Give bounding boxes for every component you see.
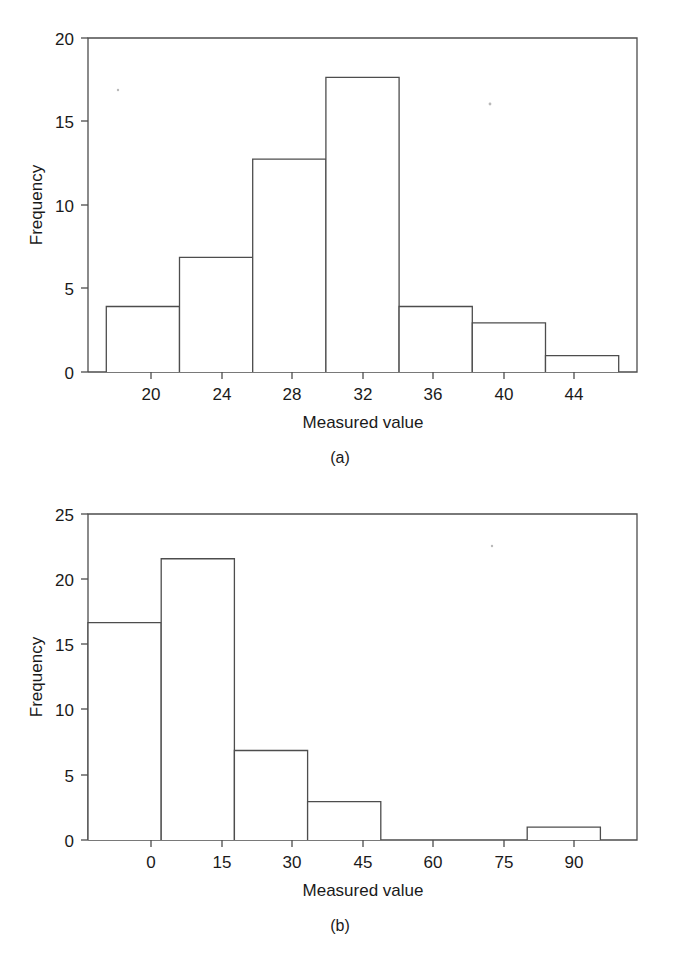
x-tick-label: 60 — [424, 853, 443, 872]
x-tick-label: 15 — [213, 853, 232, 872]
x-tick-label: 36 — [424, 385, 443, 404]
x-tick-label: 0 — [146, 853, 155, 872]
y-tick-label: 5 — [65, 767, 74, 786]
print-speck — [489, 103, 492, 106]
x-tick-label: 24 — [213, 385, 232, 404]
x-axis-title-b: Measured value — [303, 881, 424, 900]
histogram-bar — [399, 307, 472, 372]
x-axis-ticks-b — [151, 840, 574, 847]
x-tick-label: 40 — [495, 385, 514, 404]
x-tick-label: 28 — [283, 385, 302, 404]
histogram-a-svg: 20 15 10 5 0 20 24 28 32 — [0, 0, 677, 480]
y-tick-label: 20 — [55, 571, 74, 590]
x-axis-tick-labels-a: 20 24 28 32 36 40 44 — [142, 385, 584, 404]
histogram-bar — [527, 827, 600, 840]
y-axis-tick-labels-a: 20 15 10 5 0 — [55, 30, 74, 383]
y-tick-label: 20 — [55, 30, 74, 49]
x-axis-title-a: Measured value — [303, 413, 424, 432]
y-tick-label: 25 — [55, 506, 74, 525]
figure-page: 20 15 10 5 0 20 24 28 32 — [0, 0, 677, 965]
histogram-bar — [234, 751, 307, 840]
x-axis-tick-labels-b: 0 15 30 45 60 75 90 — [146, 853, 583, 872]
histogram-bar — [253, 159, 326, 372]
y-tick-label: 0 — [65, 832, 74, 851]
histogram-bars-a — [106, 77, 618, 372]
panel-a: 20 15 10 5 0 20 24 28 32 — [0, 0, 677, 480]
panel-b: 25 20 15 10 5 0 0 15 30 — [0, 480, 677, 965]
y-axis-title-b: Frequency — [27, 636, 46, 717]
panel-caption-b: (b) — [330, 917, 350, 934]
x-tick-label: 90 — [565, 853, 584, 872]
histogram-bar — [88, 623, 161, 840]
histogram-bar — [546, 356, 619, 372]
y-tick-label: 15 — [55, 636, 74, 655]
x-tick-label: 75 — [495, 853, 514, 872]
y-tick-label: 5 — [65, 280, 74, 299]
x-axis-ticks-a — [151, 372, 574, 379]
x-tick-label: 30 — [283, 853, 302, 872]
histogram-bar — [308, 802, 381, 840]
histogram-b-svg: 25 20 15 10 5 0 0 15 30 — [0, 480, 677, 965]
x-tick-label: 32 — [354, 385, 373, 404]
histogram-bar — [180, 257, 253, 372]
histogram-bar — [161, 559, 234, 840]
histogram-bars-b — [88, 559, 600, 840]
print-speck — [491, 545, 493, 547]
y-axis-ticks-a — [81, 38, 88, 372]
print-speck — [117, 89, 119, 91]
y-tick-label: 15 — [55, 113, 74, 132]
x-tick-label: 45 — [354, 853, 373, 872]
histogram-bar — [326, 77, 399, 372]
y-tick-label: 0 — [65, 364, 74, 383]
y-tick-label: 10 — [55, 701, 74, 720]
histogram-bar — [106, 307, 179, 372]
x-tick-label: 20 — [142, 385, 161, 404]
y-tick-label: 10 — [55, 197, 74, 216]
x-tick-label: 44 — [565, 385, 584, 404]
panel-caption-a: (a) — [330, 449, 350, 466]
histogram-bar — [472, 323, 545, 372]
y-axis-ticks-b — [81, 514, 88, 840]
y-axis-tick-labels-b: 25 20 15 10 5 0 — [55, 506, 74, 851]
y-axis-title-a: Frequency — [27, 164, 46, 245]
